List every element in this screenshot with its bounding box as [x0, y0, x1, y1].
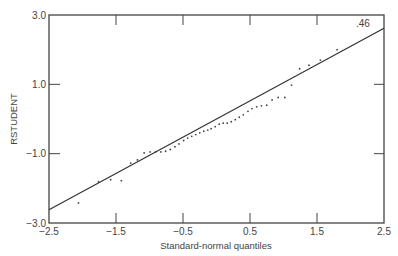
x-axis-title: Standard-normal quantiles: [160, 240, 272, 251]
data-point: [187, 137, 189, 139]
x-tick-label: −1.5: [106, 226, 126, 237]
data-point: [160, 151, 162, 153]
reference-line: [49, 28, 384, 210]
data-point: [284, 97, 286, 99]
data-point: [210, 128, 212, 130]
data-point: [319, 59, 321, 61]
y-tick-label: −3.0: [26, 218, 46, 229]
data-point: [203, 130, 205, 132]
y-axis-title: RSTUDENT: [8, 93, 19, 145]
x-tick-label: 2.5: [377, 226, 391, 237]
qq-plot: −2.5−1.5−0.50.51.52.53.01.0−1.0−3.0 .46 …: [0, 0, 398, 256]
data-point: [266, 104, 268, 106]
x-tick-label: 1.5: [310, 226, 324, 237]
data-point: [308, 64, 310, 66]
data-point: [137, 159, 139, 161]
x-tick-label: −0.5: [173, 226, 193, 237]
data-point: [218, 123, 220, 125]
y-tick-label: −1.0: [26, 148, 46, 159]
data-point: [271, 99, 273, 101]
data-point: [336, 49, 338, 51]
data-point: [174, 146, 176, 148]
data-point: [256, 106, 258, 108]
data-point: [291, 84, 293, 86]
data-point: [110, 179, 112, 181]
data-point: [234, 119, 236, 121]
data-point: [165, 150, 167, 152]
data-point: [242, 114, 244, 116]
data-point: [222, 122, 224, 124]
data-point: [155, 151, 157, 153]
data-point: [149, 151, 151, 153]
y-tick-label: 3.0: [32, 10, 46, 21]
data-point: [169, 149, 171, 151]
data-point: [178, 143, 180, 145]
data-point: [183, 140, 185, 142]
annotation-label: .46: [356, 18, 370, 29]
data-point: [78, 202, 80, 204]
data-point: [120, 180, 122, 182]
data-point: [299, 68, 301, 70]
data-point: [251, 108, 253, 110]
data-point: [277, 97, 279, 99]
data-point: [238, 116, 240, 118]
x-tick-label: 0.5: [243, 226, 257, 237]
data-point: [191, 135, 193, 137]
y-tick-label: 1.0: [32, 79, 46, 90]
data-point: [260, 105, 262, 107]
data-point: [226, 122, 228, 124]
data-point: [230, 121, 232, 123]
data-point: [247, 110, 249, 112]
data-point: [143, 152, 145, 154]
data-point: [199, 132, 201, 134]
data-points: [78, 49, 338, 204]
data-point: [214, 126, 216, 128]
data-point: [195, 134, 197, 136]
data-point: [130, 162, 132, 164]
data-point: [98, 181, 100, 183]
data-point: [207, 129, 209, 131]
